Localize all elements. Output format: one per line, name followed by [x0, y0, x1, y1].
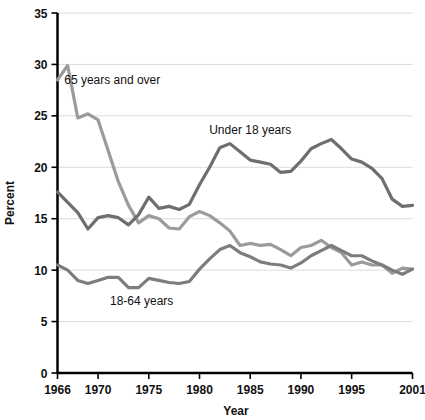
x-tick-label-1970: 1970	[85, 383, 112, 397]
y-tick-label-15: 15	[34, 212, 48, 226]
poverty-rate-line-chart: 05101520253035 1966197019751980198519901…	[0, 0, 425, 420]
y-tick-label-30: 30	[34, 58, 48, 72]
x-tick-label-1980: 1980	[186, 383, 213, 397]
chart-background	[0, 0, 425, 420]
series-label-under-18-years: Under 18 years	[209, 123, 291, 137]
series-label-65-years-and-over: 65 years and over	[64, 73, 160, 87]
x-tick-label-2001: 2001	[399, 383, 425, 397]
y-tick-label-20: 20	[34, 161, 48, 175]
y-tick-label-10: 10	[34, 264, 48, 278]
x-tick-label-1990: 1990	[288, 383, 315, 397]
y-tick-label-35: 35	[34, 7, 48, 21]
y-axis-title: Percent	[3, 181, 17, 225]
y-tick-label-25: 25	[34, 109, 48, 123]
series-label-18-64-years: 18-64 years	[110, 294, 173, 308]
x-tick-label-1975: 1975	[135, 383, 162, 397]
x-tick-label-1985: 1985	[237, 383, 264, 397]
x-axis-title: Year	[223, 404, 249, 418]
y-tick-label-0: 0	[41, 367, 48, 381]
x-tick-label-1966: 1966	[44, 383, 71, 397]
chart-plot-area: 05101520253035 1966197019751980198519901…	[0, 0, 425, 420]
y-tick-label-5: 5	[41, 315, 48, 329]
x-tick-label-1995: 1995	[338, 383, 365, 397]
